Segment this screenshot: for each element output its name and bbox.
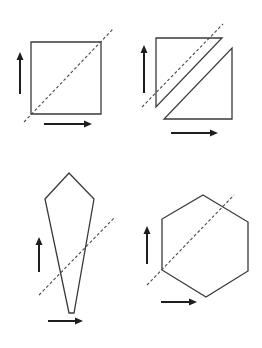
two-triangles-outline-1 — [156, 38, 222, 107]
up-arrow-icon — [144, 226, 151, 264]
dashed-cut-line — [39, 217, 115, 295]
two-triangles-outline-2 — [164, 48, 232, 119]
dashed-cut-line — [147, 195, 234, 285]
up-arrow-icon — [17, 52, 24, 94]
right-arrow-icon — [171, 130, 218, 137]
dashed-cut-line — [24, 29, 113, 122]
panel-square — [17, 29, 114, 128]
kite-outline — [45, 173, 94, 313]
panel-split-square — [141, 24, 233, 137]
diagram-canvas — [0, 0, 262, 348]
panel-kite — [36, 173, 116, 325]
dashed-cut-line — [142, 24, 223, 107]
up-arrow-icon — [36, 237, 43, 272]
right-arrow-icon — [48, 318, 83, 325]
up-arrow-icon — [141, 45, 148, 93]
right-arrow-icon — [161, 299, 197, 306]
panel-hexagon — [144, 195, 249, 306]
hexagon-outline — [162, 195, 248, 297]
right-arrow-icon — [44, 121, 92, 128]
